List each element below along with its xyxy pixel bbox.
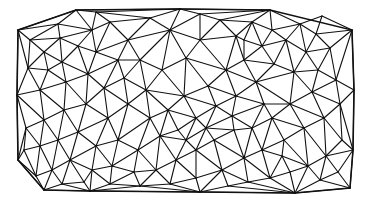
mesh-edge	[256, 82, 290, 104]
mesh-edge	[78, 104, 86, 132]
mesh-edge	[134, 150, 138, 172]
mesh-edge	[244, 60, 256, 82]
mesh-edge	[134, 172, 140, 186]
mesh-edge	[304, 128, 308, 166]
mesh-edge	[96, 140, 118, 146]
mesh-edge	[110, 172, 134, 184]
mesh-edge	[128, 90, 146, 104]
mesh-edge	[248, 182, 295, 193]
mesh-edge	[320, 172, 338, 180]
mesh-edge	[206, 128, 234, 130]
mesh-edge	[244, 46, 262, 60]
mesh-edge	[92, 12, 96, 30]
mesh-edge	[216, 106, 232, 116]
triangulated-mesh-diagram	[0, 0, 384, 202]
mesh-edge	[290, 72, 294, 104]
mesh-edge	[24, 146, 40, 150]
mesh-edge	[28, 68, 40, 90]
mesh-edge	[52, 170, 62, 184]
mesh-edge	[236, 96, 264, 104]
mesh-edge	[96, 146, 112, 166]
mesh-edge	[324, 104, 340, 118]
mesh-edge	[118, 140, 138, 150]
mesh-edge	[58, 10, 76, 24]
mesh-edge	[170, 178, 196, 184]
mesh-edge	[290, 92, 312, 104]
mesh-edge	[294, 72, 312, 92]
mesh-edge	[48, 70, 66, 82]
mesh-edge	[17, 95, 44, 120]
mesh-edge	[318, 48, 330, 70]
mesh-edge	[124, 60, 140, 78]
mesh-edge	[28, 68, 48, 70]
mesh-edge	[156, 170, 170, 184]
mesh-edge	[220, 20, 236, 36]
mesh-edge	[40, 82, 66, 90]
mesh-edge	[124, 78, 128, 104]
mesh-edge	[156, 160, 176, 170]
mesh-edge	[306, 48, 330, 52]
mesh-edge	[270, 10, 272, 30]
mesh-edge	[308, 166, 320, 180]
mesh-edge	[28, 52, 44, 68]
mesh-edge	[40, 120, 44, 146]
mesh-edge	[162, 58, 186, 70]
mesh-edge	[112, 166, 134, 172]
mesh-edge	[30, 38, 60, 40]
mesh-edge	[138, 136, 160, 150]
mesh-edge	[160, 110, 168, 136]
mesh-edge	[150, 18, 170, 30]
mesh-edge	[78, 46, 96, 52]
mesh-edge	[112, 150, 138, 166]
mesh-edge	[336, 30, 352, 80]
mesh-edge	[128, 30, 170, 40]
mesh-edge	[304, 128, 326, 156]
mesh-edge	[272, 104, 290, 118]
mesh-edge	[330, 48, 336, 80]
mesh-edge	[170, 14, 200, 30]
mesh-edge	[244, 150, 262, 158]
mesh-edge	[26, 128, 40, 146]
mesh-edge	[104, 88, 108, 118]
mesh-edge	[286, 40, 294, 72]
mesh-edge	[58, 132, 78, 140]
mesh-edge	[196, 118, 206, 128]
mesh-edge	[244, 22, 252, 40]
mesh-edge	[78, 30, 92, 46]
mesh-edges	[17, 9, 354, 193]
mesh-edge	[104, 88, 128, 104]
mesh-edge	[236, 22, 252, 36]
mesh-edge	[340, 90, 354, 104]
mesh-edge	[86, 88, 104, 104]
mesh-edge	[308, 156, 326, 166]
mesh-edge	[186, 58, 208, 86]
mesh-edge	[76, 10, 92, 30]
mesh-edge	[62, 182, 84, 184]
mesh-edge	[200, 20, 220, 40]
mesh-edge	[110, 18, 150, 22]
mesh-edge	[146, 70, 162, 90]
mesh-edge	[306, 52, 318, 70]
mesh-edge	[262, 140, 284, 150]
mesh-edge	[86, 74, 88, 104]
mesh-edge	[140, 184, 170, 186]
mesh-edge	[336, 80, 340, 104]
mesh-edge	[28, 40, 30, 68]
mesh-edge	[234, 130, 244, 158]
mesh-edge	[17, 68, 28, 95]
mesh-edge	[17, 95, 26, 128]
mesh-edge	[206, 128, 214, 140]
mesh-edge	[64, 110, 78, 132]
mesh-edge	[128, 104, 150, 118]
mesh-edge	[176, 160, 196, 178]
mesh-edge	[312, 70, 318, 92]
mesh-edge	[200, 186, 228, 192]
mesh-edge	[160, 130, 178, 136]
mesh-edge	[60, 38, 62, 62]
mesh-edge	[44, 184, 62, 190]
mesh-edge	[216, 96, 236, 106]
mesh-edge	[58, 140, 70, 160]
mesh-edge	[200, 36, 236, 40]
mesh-edge	[232, 116, 252, 128]
mesh-edge	[262, 150, 270, 178]
